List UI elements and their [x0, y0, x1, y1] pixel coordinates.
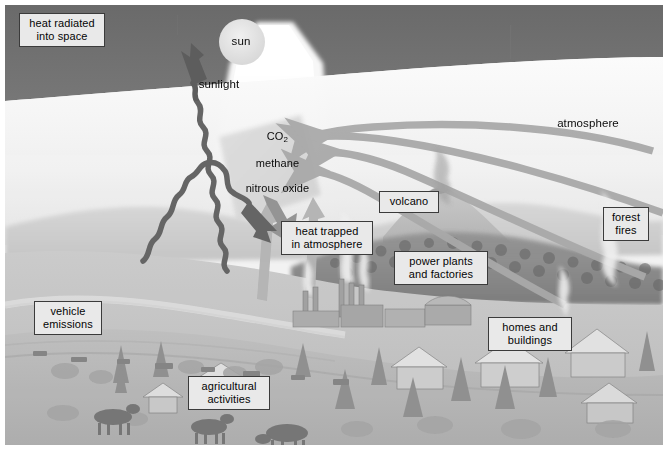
- label-volcano: volcano: [379, 191, 439, 213]
- illustration-plate: heat radiated into space sun sunlight CO…: [5, 5, 663, 445]
- gas-co2-text: CO: [267, 130, 284, 142]
- label-vehicle-emissions: vehicle emissions: [34, 301, 102, 335]
- label-heat-radiated-into-space: heat radiated into space: [19, 13, 105, 47]
- greenhouse-effect-diagram: heat radiated into space sun sunlight CO…: [0, 0, 668, 459]
- label-atmosphere: atmosphere: [543, 117, 633, 130]
- label-greenhouse-gases: CO2 methane nitrous oxide: [213, 117, 323, 207]
- label-forest-fires: forest fires: [603, 207, 649, 241]
- label-sunlight: sunlight: [183, 78, 255, 91]
- label-homes-and-buildings: homes and buildings: [488, 317, 572, 351]
- label-sun: sun: [218, 35, 264, 48]
- label-agricultural-activities: agricultural activities: [188, 376, 270, 410]
- gas-co2-subscript: 2: [284, 135, 289, 144]
- gas-nitrous-oxide-text: nitrous oxide: [246, 182, 310, 194]
- label-heat-trapped-in-atmosphere: heat trapped in atmosphere: [281, 221, 373, 255]
- gas-methane-text: methane: [256, 157, 300, 169]
- label-power-plants-and-factories: power plants and factories: [394, 251, 488, 285]
